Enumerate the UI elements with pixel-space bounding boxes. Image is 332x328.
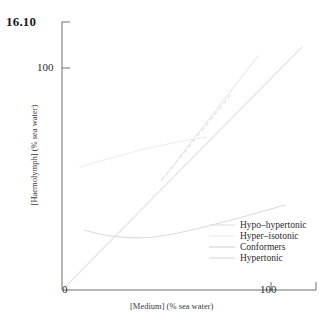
- chart-canvas: [0, 0, 332, 328]
- legend-line-icon-hyper-isotonic: [208, 230, 236, 241]
- legend-line-icon-hypo-hypertonic: [208, 219, 236, 230]
- x-axis-tick-label-100: 100: [260, 283, 277, 295]
- y-axis-title: [Haemolymph] (% sea water): [29, 85, 39, 225]
- chart-legend: Hypo–hypertonic Hyper–isotonic Conformer…: [208, 219, 328, 263]
- legend-line-icon-hypertonic: [208, 252, 236, 263]
- plot-area: [0, 0, 332, 328]
- legend-label-hypo-hypertonic: Hypo–hypertonic: [240, 220, 307, 230]
- legend-label-conformers: Conformers: [240, 242, 285, 252]
- legend-line-icon-conformers: [208, 241, 236, 252]
- legend-item-hypertonic: Hypertonic: [208, 252, 328, 263]
- figure-root: 16.10: [0, 0, 332, 328]
- x-axis-title: [Medium] (% sea water): [130, 301, 213, 311]
- legend-item-hyper-isotonic: Hyper–isotonic: [208, 230, 328, 241]
- legend-item-hypo-hypertonic: Hypo–hypertonic: [208, 219, 328, 230]
- legend-label-hypertonic: Hypertonic: [240, 253, 283, 263]
- y-axis-tick-label-100: 100: [37, 61, 54, 73]
- x-axis-tick-label-0: 0: [62, 283, 68, 295]
- series-line-hypo-hypertonic-solid: [161, 56, 258, 181]
- legend-item-conformers: Conformers: [208, 241, 328, 252]
- legend-label-hyper-isotonic: Hyper–isotonic: [240, 231, 299, 241]
